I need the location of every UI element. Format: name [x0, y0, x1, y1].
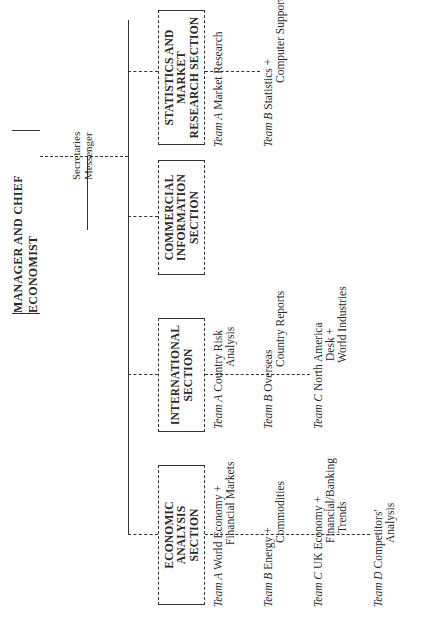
section-international: INTERNATIONAL SECTION	[158, 318, 205, 432]
section-commercial-information: COMMERCIAL INFORMATION SECTION	[158, 160, 205, 275]
section-economic-analysis: ECONOMIC ANALYSIS SECTION	[158, 465, 205, 605]
support-secretaries: Secretaries	[70, 132, 82, 180]
economic-team-a: Team A World Economy + Financial Markets	[212, 462, 236, 607]
manager-box: MANAGER AND CHIEF ECONOMIST	[12, 130, 40, 314]
support-staff: Secretaries Messenger	[70, 132, 94, 180]
section-label: INTERNATIONAL SECTION	[169, 325, 194, 425]
economic-team-c: Team C UK Economy + Financial/Banking Tr…	[312, 458, 348, 607]
spine-line	[128, 20, 129, 535]
drop-international	[128, 374, 158, 375]
support-messenger: Messenger	[82, 132, 94, 180]
statistics-team-b: Team B Statistics + Computer Support	[262, 0, 286, 147]
section-label: ECONOMIC ANALYSIS SECTION	[163, 501, 201, 568]
economic-team-d: Team D Competitors' Analysis	[372, 503, 396, 607]
manager-title: MANAGER AND CHIEF ECONOMIST	[11, 131, 41, 313]
drop-economic	[128, 534, 158, 535]
drop-commercial	[128, 216, 158, 217]
economic-team-b: Team B Energy + Commodities	[262, 481, 286, 607]
org-chart: MANAGER AND CHIEF ECONOMIST Secretaries …	[0, 0, 422, 627]
drop-statistics	[128, 71, 158, 72]
international-team-c: Team C North America Desk + World Indust…	[312, 286, 348, 429]
section-label: STATISTICS AND MARKET RESEARCH SECTION	[163, 17, 201, 139]
international-team-b: Team B Overseas Country Reports	[262, 291, 286, 429]
statistics-team-a: Team A Market Research	[212, 31, 224, 147]
section-statistics-market-research: STATISTICS AND MARKET RESEARCH SECTION	[158, 10, 205, 145]
section-label: COMMERCIAL INFORMATION SECTION	[163, 174, 201, 261]
international-team-a: Team A Country Risk Analysis	[212, 327, 236, 429]
